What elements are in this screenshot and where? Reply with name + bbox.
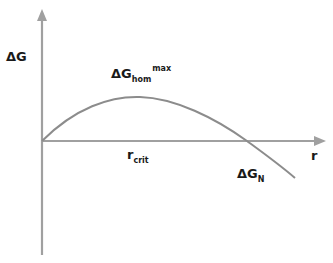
y-axis-arrow-icon — [37, 9, 47, 21]
y-axis-label: ΔG — [6, 50, 27, 63]
peak-label-main: ΔG — [111, 66, 132, 81]
y-axis-label-text: ΔG — [6, 49, 27, 64]
y-axis — [37, 9, 47, 255]
dgn-label: ΔGN — [237, 167, 264, 180]
rcrit-label: rcrit — [127, 148, 149, 161]
rcrit-label-sub: crit — [133, 156, 148, 165]
nucleation-energy-diagram — [0, 0, 333, 263]
x-axis-label-text: r — [311, 148, 317, 163]
peak-label-sub: hom — [132, 75, 152, 84]
x-axis-arrow-icon — [314, 136, 326, 146]
dgn-label-sub: N — [258, 175, 265, 184]
peak-label-sup: max — [152, 64, 171, 73]
x-axis-label: r — [311, 149, 317, 162]
peak-label: ΔGhommax — [111, 67, 171, 80]
x-axis — [42, 136, 326, 146]
dgn-label-main: ΔG — [237, 166, 258, 181]
